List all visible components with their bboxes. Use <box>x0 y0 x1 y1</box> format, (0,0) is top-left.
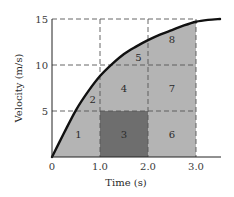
region-label-1: 1 <box>75 129 81 140</box>
velocity-time-chart: 12345678 01.02.03.051015 Time (s) Veloci… <box>0 0 234 197</box>
x-tick-1.0: 1.0 <box>92 161 108 172</box>
x-tick-2.0: 2.0 <box>140 161 156 172</box>
region-label-3: 3 <box>121 129 127 140</box>
y-tick-5: 5 <box>42 106 48 117</box>
region-label-2: 2 <box>90 94 96 105</box>
x-tick-3.0: 3.0 <box>188 161 204 172</box>
y-tick-15: 15 <box>35 14 48 25</box>
region-label-6: 6 <box>169 129 175 140</box>
y-axis-label: Velocity (m/s) <box>13 53 24 123</box>
y-tick-10: 10 <box>35 60 48 71</box>
x-tick-0: 0 <box>49 161 55 172</box>
region-label-4: 4 <box>121 83 127 94</box>
region-label-7: 7 <box>169 83 175 94</box>
region-label-8: 8 <box>169 34 175 45</box>
region-label-5: 5 <box>135 52 141 63</box>
x-axis-label: Time (s) <box>105 177 146 188</box>
